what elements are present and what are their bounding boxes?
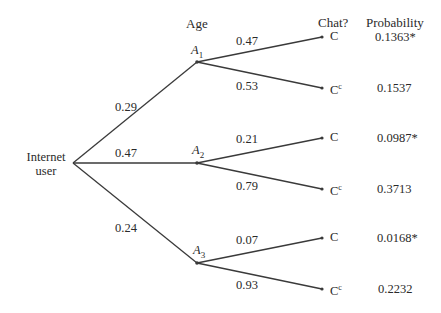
joint-prob-a2-c: 0.0987* <box>377 131 418 145</box>
branch-prob-a3-cc: 0.93 <box>236 278 258 292</box>
root-label-line1: Internet <box>16 150 76 164</box>
outcome-a3-cc: Cc <box>330 281 342 298</box>
root-label: Internet user <box>16 150 76 178</box>
branch-a2-cc <box>197 163 322 189</box>
leaf-dot <box>320 35 323 38</box>
outcome-a2-c: C <box>330 130 338 144</box>
branch-prob-a3-c: 0.07 <box>236 233 258 247</box>
node-a3 <box>195 261 199 265</box>
header-chat: Chat? <box>318 16 348 30</box>
outcome-a1-c: C <box>330 29 338 43</box>
branch-a1-c <box>197 37 322 62</box>
leaf-dot <box>320 287 323 290</box>
branch-prob-a3: 0.24 <box>115 221 137 235</box>
branch-prob-a2: 0.47 <box>115 146 137 160</box>
branch-a1-cc <box>197 62 322 88</box>
joint-prob-a1-cc: 0.1537 <box>377 81 411 95</box>
branch-prob-a2-cc: 0.79 <box>236 179 258 193</box>
header-probability: Probability <box>366 16 424 30</box>
outcome-a1-cc: Cc <box>330 80 342 97</box>
joint-prob-a3-cc: 0.2232 <box>378 282 412 296</box>
branch-prob-a2-c: 0.21 <box>236 132 258 146</box>
branch-prob-a1-cc: 0.53 <box>236 79 258 93</box>
outcome-a3-c: C <box>330 230 338 244</box>
leaf-dot <box>320 136 323 139</box>
leaf-dot <box>320 86 323 89</box>
node-a2 <box>195 161 199 165</box>
branch-a3-c <box>197 238 322 263</box>
joint-prob-a3-c: 0.0168* <box>377 231 418 245</box>
outcome-a2-cc: Cc <box>330 181 342 198</box>
branch-a3-cc <box>197 263 322 289</box>
leaf-dot <box>320 236 323 239</box>
age-node-label-a1: A1 <box>191 43 203 62</box>
header-age: Age <box>186 17 208 31</box>
age-node-label-a3: A3 <box>193 243 205 262</box>
joint-prob-a2-cc: 0.3713 <box>377 182 411 196</box>
root-label-line2: user <box>16 164 76 178</box>
joint-prob-a1-c: 0.1363* <box>375 30 416 44</box>
branch-root-a3 <box>73 163 197 263</box>
leaf-dot <box>320 187 323 190</box>
branch-prob-a1: 0.29 <box>115 100 137 114</box>
branch-a2-c <box>197 138 322 163</box>
branch-prob-a1-c: 0.47 <box>236 34 258 48</box>
age-node-label-a2: A2 <box>192 143 204 162</box>
